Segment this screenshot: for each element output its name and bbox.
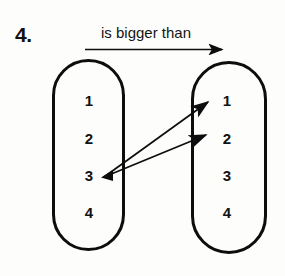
left-set-element-2: 2 xyxy=(81,131,97,146)
left-set-element-3: 3 xyxy=(81,168,97,183)
relation-label: is bigger than xyxy=(101,25,191,40)
right-set-element-4: 4 xyxy=(219,205,235,220)
right-set-element-3: 3 xyxy=(219,168,235,183)
right-set-element-2: 2 xyxy=(219,131,235,146)
left-set-element-1: 1 xyxy=(81,93,97,108)
left-set-oval xyxy=(52,59,125,251)
left-set-element-4: 4 xyxy=(81,205,97,220)
arrow-diagram-worksheet: 4. is bigger than 1 2 3 4 1 2 3 4 xyxy=(0,0,285,276)
question-number: 4. xyxy=(15,24,32,45)
right-set-oval xyxy=(191,61,267,254)
right-set-element-1: 1 xyxy=(219,93,235,108)
